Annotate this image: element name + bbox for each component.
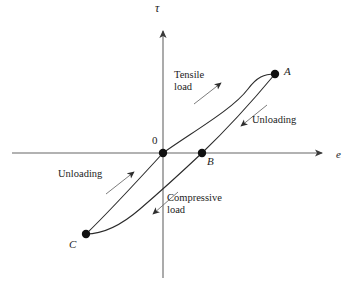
- arrow-unloading-lower: [106, 172, 134, 194]
- annotation-tensile-load: Tensile load: [174, 69, 204, 92]
- annotation-compressive-load-line2: load: [167, 204, 222, 216]
- diagram-canvas: [0, 0, 353, 287]
- hysteresis-diagram: τ e 0 A B C Tensile load Unloading Unloa…: [0, 0, 353, 287]
- origin-label: 0: [152, 134, 158, 146]
- annotation-compressive-load: Compressive load: [167, 192, 222, 215]
- annotation-tensile-load-line2: load: [174, 81, 204, 93]
- point-origin: [159, 149, 167, 157]
- annotation-unloading-upper: Unloading: [252, 114, 296, 126]
- axis-group: [12, 31, 322, 278]
- annotation-compressive-load-line1: Compressive: [167, 192, 222, 204]
- curve-unloading-lower: [86, 153, 163, 234]
- point-c: [82, 230, 90, 238]
- annotation-tensile-load-line1: Tensile: [174, 69, 204, 81]
- point-label-a: A: [284, 65, 291, 77]
- x-axis-label: e: [336, 148, 341, 160]
- point-a: [271, 70, 279, 78]
- point-label-c: C: [69, 238, 76, 250]
- annotation-unloading-lower: Unloading: [58, 168, 102, 180]
- point-b: [198, 149, 206, 157]
- y-axis-label: τ: [155, 2, 159, 14]
- point-label-b: B: [207, 155, 214, 167]
